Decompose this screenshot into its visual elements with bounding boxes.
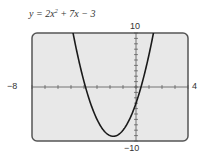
- graph-screen: [0, 0, 202, 160]
